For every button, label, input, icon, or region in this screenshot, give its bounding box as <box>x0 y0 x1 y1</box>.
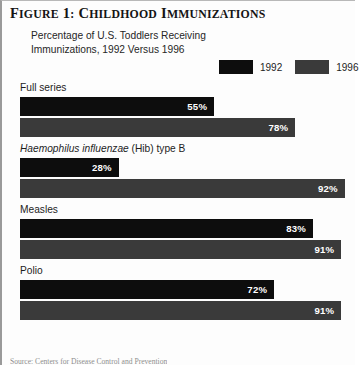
legend-swatch-1996 <box>295 60 329 74</box>
chart-legend: 19921996 <box>219 60 359 74</box>
bar-value-label: 92% <box>318 183 345 194</box>
legend-label-1992: 1992 <box>260 62 282 73</box>
bar-row: 72% <box>20 280 357 299</box>
bar-row: 28% <box>20 158 357 177</box>
bar-row: 91% <box>20 240 357 259</box>
bar-row: 78% <box>20 118 357 137</box>
bar-value-label: 83% <box>286 223 313 234</box>
bar-1996: 91% <box>20 240 341 259</box>
bar-value-label: 72% <box>247 284 274 295</box>
legend-swatch-1992 <box>219 60 253 74</box>
bar-row: 55% <box>20 97 357 116</box>
bar-value-label: 91% <box>314 244 341 255</box>
chart-plot-area: Full series55%78%Haemophilus influenzae … <box>2 81 357 325</box>
bar-1996: 91% <box>20 301 341 320</box>
bar-row: 92% <box>20 179 357 198</box>
bar-value-label: 78% <box>269 122 296 133</box>
source-note: Source: Centers for Disease Control and … <box>10 357 167 365</box>
bar-1996: 78% <box>20 118 295 137</box>
figure-title: FIGURE 1: CHILDHOOD IMMUNIZATIONS <box>10 4 265 22</box>
bar-1996: 92% <box>20 179 345 198</box>
chart-subtitle: Percentage of U.S. Toddlers Receiving Im… <box>31 29 246 56</box>
bar-row: 91% <box>20 301 357 320</box>
bar-value-label: 91% <box>314 305 341 316</box>
legend-item-1996: 1996 <box>295 60 358 74</box>
figure-title-text: FIGURE 1: CHILDHOOD IMMUNIZATIONS <box>10 4 265 21</box>
species-name: Haemophilus influenzae <box>20 143 129 154</box>
bar-group: Full series55%78% <box>2 81 357 137</box>
bar-group: Polio72%91% <box>2 264 357 320</box>
bar-group-label: Full series <box>20 81 357 95</box>
bar-row: 83% <box>20 219 357 238</box>
bar-1992: 28% <box>20 158 119 177</box>
bar-group-label: Haemophilus influenzae (Hib) type B <box>20 142 357 156</box>
legend-item-1992: 1992 <box>219 60 282 74</box>
bar-group-label: Polio <box>20 264 357 278</box>
bar-group: Haemophilus influenzae (Hib) type B28%92… <box>2 142 357 198</box>
bar-1992: 83% <box>20 219 313 238</box>
bar-1992: 55% <box>20 97 214 116</box>
bar-value-label: 28% <box>92 162 119 173</box>
legend-label-1996: 1996 <box>336 62 358 73</box>
bar-group: Measles83%91% <box>2 203 357 259</box>
bar-group-label: Measles <box>20 203 357 217</box>
bar-1992: 72% <box>20 280 274 299</box>
bar-value-label: 55% <box>187 101 214 112</box>
